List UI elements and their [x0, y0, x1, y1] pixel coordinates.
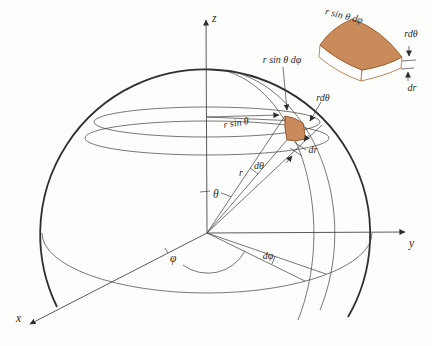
z-axis	[206, 20, 207, 233]
theta-tick	[200, 191, 210, 192]
radius-line-r	[207, 116, 285, 233]
phi-arc-left	[165, 248, 168, 253]
phi-arc-right	[183, 251, 245, 273]
y-axis-label: y	[408, 237, 415, 250]
diagram-canvas: z y x θ φ dθ dφ r dr r sin θ rdθ r sin θ…	[0, 0, 432, 346]
x-axis	[30, 233, 207, 324]
equator-circle	[42, 233, 372, 293]
dr-arrow-lower	[286, 156, 292, 163]
r-sin-theta-dphi-label: r sin θ dφ	[263, 54, 302, 65]
r-dtheta-leader-arrow	[310, 102, 321, 121]
inset-volume-element: r sin θ dφ rdθ dr	[319, 6, 418, 93]
inset-dr-tick-top	[402, 60, 416, 61]
azimuth-line-phi	[207, 233, 305, 281]
r-dtheta-label: rdθ	[316, 92, 330, 103]
inset-dr-label: dr	[408, 82, 417, 93]
dtheta-label: dθ	[254, 160, 264, 171]
sphere-outline	[40, 69, 370, 317]
x-axis-label: x	[15, 312, 22, 324]
inset-r-dtheta-label: rdθ	[404, 28, 418, 39]
dphi-label: dφ	[263, 250, 274, 261]
meridian-phi	[229, 72, 314, 320]
r-label: r	[239, 167, 243, 178]
phi-label: φ	[170, 252, 177, 265]
dr-label: dr	[309, 144, 318, 155]
y-axis	[207, 232, 405, 233]
inset-dr-tick-bottom	[401, 68, 414, 69]
volume-element-patch	[285, 116, 305, 141]
theta-label: θ	[213, 188, 219, 200]
radius-line-through-dr	[207, 125, 322, 233]
theta-arc	[221, 193, 231, 197]
r-sin-theta-label: r sin θ	[223, 115, 250, 130]
spherical-coordinates-figure: z y x θ φ dθ dφ r dr r sin θ rdθ r sin θ…	[0, 0, 432, 346]
z-axis-label: z	[211, 12, 217, 24]
